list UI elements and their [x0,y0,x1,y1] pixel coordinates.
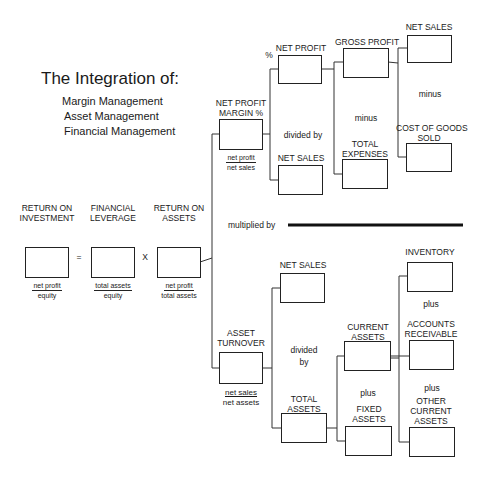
net-profit-label: NET PROFIT [272,43,330,53]
minus-text-2: minus [410,89,450,99]
npm-label-line1: NET PROFIT [210,98,272,108]
fl-denominator: equity [104,292,123,299]
total-expenses-label-line2: EXPENSES [334,149,396,159]
total-expenses-label: TOTAL EXPENSES [334,139,396,159]
roi-label-line2: INVESTMENT [15,213,79,223]
npm-numerator: net profit [226,153,255,163]
roi-label: RETURN ON INVESTMENT [15,203,79,223]
npm-label-line2: MARGIN % [210,108,272,118]
times-sign: X [140,252,150,262]
asset-turnover-denominator: net assets [223,398,259,407]
net-profit-box[interactable] [278,55,322,84]
roa-formula: net profit total assets [147,281,211,300]
title-item-margin: Margin Management [62,95,163,107]
plus-text-1: plus [348,388,388,398]
net-sales-top-box[interactable] [407,35,452,63]
fl-label: FINANCIAL LEVERAGE [81,203,145,223]
asset-turnover-numerator: net sales [224,388,258,398]
roa-label-line2: ASSETS [147,213,211,223]
oca-label-line2: CURRENT [402,406,460,416]
net-sales-lower-label: NET SALES [274,260,332,270]
minus-text-1: minus [346,113,386,123]
gross-profit-label: GROSS PROFIT [334,37,400,47]
roa-numerator: net profit [164,281,193,291]
other-current-assets-label: OTHER CURRENT ASSETS [402,396,460,426]
npm-box[interactable] [219,119,263,150]
title-item-asset: Asset Management [64,110,159,122]
asset-turnover-label: ASSET TURNOVER [210,328,272,348]
fl-formula: total assets equity [81,281,145,300]
total-expenses-label-line1: TOTAL [334,139,396,149]
net-sales-top-label: NET SALES [402,22,456,32]
plus-text-3: plus [412,383,452,393]
fl-numerator: total assets [94,281,131,291]
oca-label-line3: ASSETS [402,416,460,426]
gross-profit-box[interactable] [343,48,389,78]
fixed-assets-label: FIXED ASSETS [341,404,397,424]
divided-line2: by [284,356,324,368]
total-assets-label-line1: TOTAL [276,394,332,404]
divided-by-text-1: divided by [268,130,338,140]
title-item-financial: Financial Management [64,125,175,137]
inventory-box[interactable] [407,262,453,292]
roa-box[interactable] [157,247,201,278]
asset-turnover-formula: net sales net assets [210,388,272,408]
accounts-receivable-label: ACCOUNTS RECEIVABLE [400,319,462,339]
oca-label-line1: OTHER [402,396,460,406]
accounts-receivable-label-line1: ACCOUNTS [400,319,462,329]
inventory-label: INVENTORY [402,247,458,257]
other-current-assets-box[interactable] [409,427,455,457]
fixed-assets-label-line1: FIXED [341,404,397,414]
fixed-assets-box[interactable] [345,426,392,456]
npm-label: NET PROFIT MARGIN % [210,98,272,118]
roa-denominator: total assets [161,292,196,299]
cogs-label-line1: COST OF GOODS [396,123,462,133]
total-expenses-box[interactable] [342,159,388,189]
current-assets-box[interactable] [344,341,391,371]
total-assets-label: TOTAL ASSETS [276,394,332,414]
net-sales-lower-box[interactable] [280,273,325,303]
cogs-label: COST OF GOODS SOLD [396,123,462,143]
fixed-assets-label-line2: ASSETS [341,414,397,424]
roi-box[interactable] [25,247,69,278]
equals-sign: = [74,252,84,262]
current-assets-label-line1: CURRENT [340,322,396,332]
current-assets-label: CURRENT ASSETS [340,322,396,342]
net-sales-upper-label: NET SALES [272,153,330,163]
roi-denominator: equity [38,292,57,299]
divided-by-text-2: divided by [284,344,324,368]
cogs-label-line2: SOLD [396,133,462,143]
total-assets-box[interactable] [281,413,327,443]
roi-label-line1: RETURN ON [15,203,79,213]
fl-box[interactable] [91,247,135,278]
npm-formula: net profit net sales [210,153,272,172]
multiplied-by-text: multiplied by [228,220,278,230]
cogs-box[interactable] [406,143,452,172]
roa-label-line1: RETURN ON [147,203,211,213]
divided-line1: divided [284,344,324,356]
roa-label: RETURN ON ASSETS [147,203,211,223]
asset-turnover-box[interactable] [219,352,263,384]
roi-formula: net profit equity [15,281,79,300]
diagram-title: The Integration of: [41,69,179,89]
net-sales-upper-box[interactable] [278,165,323,195]
asset-turnover-label-line1: ASSET [210,328,272,338]
roi-numerator: net profit [32,281,61,291]
asset-turnover-label-line2: TURNOVER [210,338,272,348]
npm-denominator: net sales [227,164,255,171]
accounts-receivable-label-line2: RECEIVABLE [400,329,462,339]
fl-label-line1: FINANCIAL [81,203,145,213]
fl-label-line2: LEVERAGE [81,213,145,223]
plus-text-2: plus [411,299,451,309]
accounts-receivable-box[interactable] [409,340,454,370]
